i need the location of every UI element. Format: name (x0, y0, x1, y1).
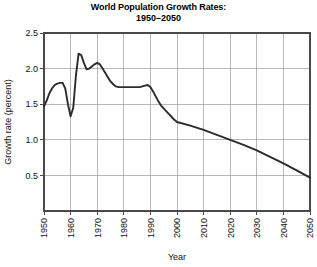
y-tick-label: 1.0 (25, 135, 38, 145)
x-tick-label: 1980 (119, 218, 129, 238)
line-chart-plot: 0.51.01.52.02.5 195019601970198019902000… (0, 0, 317, 267)
x-tick-label: 2020 (226, 218, 236, 238)
y-tick-label: 0.5 (25, 171, 38, 181)
x-tick-label: 1990 (146, 218, 156, 238)
x-tick-label: 2010 (199, 218, 209, 238)
x-tick-label: 1960 (66, 218, 76, 238)
x-tick-label: 2030 (252, 218, 262, 238)
x-axis-title: Year (168, 252, 186, 262)
y-tick-label: 1.5 (25, 99, 38, 109)
x-tick-label: 1950 (39, 218, 49, 238)
y-axis-title: Growth rate (percent) (3, 79, 13, 165)
chart-figure: World Population Growth Rates: 1950–2050… (0, 0, 317, 267)
x-tick-label: 1970 (93, 218, 103, 238)
x-tick-label: 2040 (279, 218, 289, 238)
tickmarks-group (40, 33, 310, 215)
y-tick-label: 2.5 (25, 28, 38, 38)
y-tick-labels-group: 0.51.01.52.02.5 (25, 28, 38, 180)
x-tick-labels-group: 1950196019701980199020002010202020302040… (39, 218, 315, 238)
x-tick-label: 2050 (305, 218, 315, 238)
y-tick-label: 2.0 (25, 64, 38, 74)
x-tick-label: 2000 (172, 218, 182, 238)
